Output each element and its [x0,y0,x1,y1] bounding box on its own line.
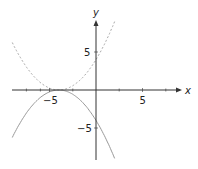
y-axis-label: y [92,7,100,18]
dashed-parabola [12,22,114,90]
y-axis-arrow-icon [94,20,99,26]
x-tick-label-pos: 5 [140,95,146,106]
y-tick-label-neg: −5 [77,123,92,134]
axes: x y −5 5 5 −5 [12,7,191,160]
solid-parabola [12,90,114,158]
x-axis-arrow-icon [176,88,182,93]
y-tick-label-pos: 5 [84,47,90,58]
x-tick-label-neg: −5 [43,95,58,106]
x-axis-label: x [184,85,191,96]
function-plot: x y −5 5 5 −5 [0,0,198,169]
